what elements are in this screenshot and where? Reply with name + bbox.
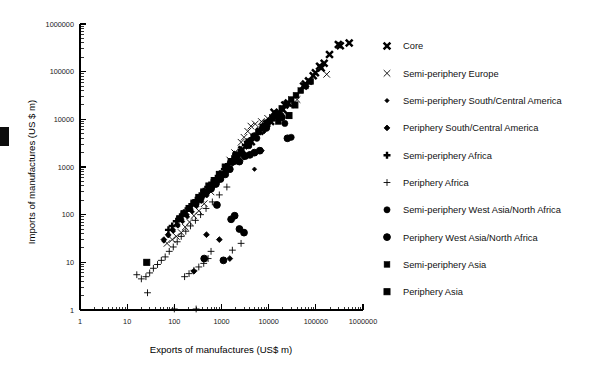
data-points-group xyxy=(133,40,352,313)
data-point xyxy=(192,217,199,224)
data-point xyxy=(252,167,256,171)
data-point xyxy=(228,159,234,165)
data-point xyxy=(165,226,172,233)
y-axis-title: Imports of manufactures (US $ m) xyxy=(26,100,37,244)
x-tick-label: 1 xyxy=(78,317,82,326)
series-6 xyxy=(193,120,294,206)
data-point xyxy=(216,171,222,177)
data-point xyxy=(154,261,161,268)
series-5 xyxy=(133,184,244,313)
legend-item-0[interactable] xyxy=(377,38,609,54)
data-point xyxy=(227,256,233,262)
data-point xyxy=(150,265,157,272)
data-point xyxy=(191,267,198,274)
y-tick-label: 1 xyxy=(70,306,74,315)
legend-item-1[interactable] xyxy=(377,65,609,81)
data-point xyxy=(222,164,228,170)
data-point xyxy=(158,257,165,264)
data-point xyxy=(282,120,288,126)
y-tick-label: 10000 xyxy=(54,115,74,124)
data-point xyxy=(206,183,212,189)
data-point xyxy=(197,211,204,218)
x-axis-title: Exports of manufactures (US$ m) xyxy=(150,344,292,355)
x-tick-label: 10000 xyxy=(259,317,279,326)
data-point xyxy=(193,306,200,313)
data-point xyxy=(264,124,270,130)
y-tick-label: 100 xyxy=(62,210,74,219)
data-point xyxy=(162,254,169,261)
x-tick-label: 1000 xyxy=(213,317,229,326)
data-point xyxy=(236,226,243,233)
data-point xyxy=(203,205,210,212)
data-point xyxy=(323,71,330,78)
x-tick-label: 100000 xyxy=(304,317,328,326)
y-tick-label: 1000000 xyxy=(46,20,74,29)
legend-item-6[interactable] xyxy=(377,202,609,218)
data-point xyxy=(170,244,177,251)
data-point xyxy=(220,257,227,264)
data-point xyxy=(133,271,140,278)
data-point xyxy=(292,102,298,108)
legend-item-5[interactable] xyxy=(377,175,609,191)
data-point xyxy=(326,51,333,58)
data-point xyxy=(208,248,215,255)
data-point xyxy=(146,270,153,277)
data-point xyxy=(186,219,193,226)
scatter-plot-figure: 1101001000100001000001000000110100100010… xyxy=(0,0,609,371)
y-tick-label: 100000 xyxy=(50,67,74,76)
data-point xyxy=(346,40,353,47)
data-point xyxy=(144,259,150,265)
data-point xyxy=(229,247,236,254)
data-point xyxy=(286,113,292,119)
data-point xyxy=(144,289,151,296)
data-point xyxy=(308,79,314,85)
y-tick-label: 10 xyxy=(66,258,74,267)
data-point xyxy=(274,110,280,116)
data-point xyxy=(166,248,173,255)
data-point xyxy=(242,153,249,160)
data-point xyxy=(196,194,202,200)
x-tick-label: 10 xyxy=(123,317,131,326)
data-point xyxy=(204,232,210,238)
data-point xyxy=(228,216,235,223)
data-point xyxy=(216,191,223,198)
data-point xyxy=(246,139,252,145)
data-point xyxy=(182,224,189,231)
y-tick-label: 1000 xyxy=(58,163,74,172)
legend-item-7[interactable] xyxy=(377,229,609,245)
series-3 xyxy=(161,148,264,274)
legend-item-2[interactable] xyxy=(377,93,609,109)
legend-item-8[interactable] xyxy=(377,256,609,272)
data-point xyxy=(238,240,245,247)
data-point xyxy=(201,255,208,262)
x-tick-label: 100 xyxy=(168,317,180,326)
data-point xyxy=(216,237,222,243)
data-point xyxy=(177,216,183,222)
data-point xyxy=(214,202,221,209)
data-point xyxy=(195,264,202,271)
legend-item-9[interactable] xyxy=(377,284,609,300)
legend-item-3[interactable] xyxy=(377,120,609,136)
data-point xyxy=(284,135,291,142)
data-point xyxy=(223,184,230,191)
legend-item-4[interactable] xyxy=(377,147,609,163)
x-tick-label: 1000000 xyxy=(349,317,377,326)
data-point xyxy=(181,273,188,280)
series-8 xyxy=(246,79,314,145)
data-point xyxy=(275,119,281,125)
